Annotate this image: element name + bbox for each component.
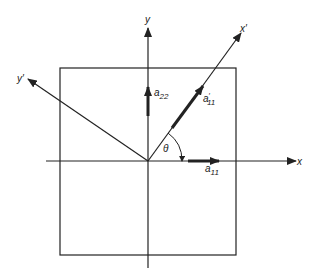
a11-prime-vector: [172, 86, 203, 128]
x-prime-axis-label: x′: [239, 23, 248, 34]
svg-text:a22: a22: [154, 87, 169, 101]
y-prime-axis: [28, 79, 148, 161]
a22-label: a22: [154, 87, 169, 101]
y-axis-label: y: [144, 14, 151, 25]
svg-text:a11: a11: [205, 163, 219, 177]
theta-arc: [168, 133, 182, 161]
rotation-diagram: y x x′ y′ θ a22 a11 a′11: [0, 0, 317, 278]
theta-label: θ: [163, 143, 169, 154]
x-axis-label: x: [296, 156, 303, 167]
svg-text:a′11: a′11: [203, 92, 215, 107]
a11-prime-label: a′11: [203, 92, 215, 107]
a11-label: a11: [205, 163, 219, 177]
y-prime-axis-label: y′: [16, 73, 25, 84]
